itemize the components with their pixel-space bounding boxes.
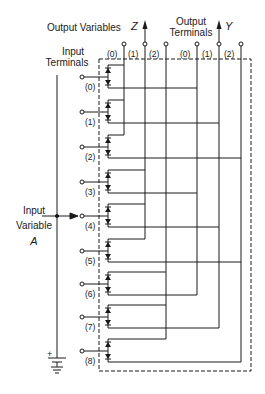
input-terminal-label: (3) xyxy=(85,187,95,198)
input-terminal-7 xyxy=(80,315,84,319)
output-terminal-z2 xyxy=(164,42,168,46)
output-terminal-z0 xyxy=(122,42,126,46)
input-terminal-2 xyxy=(80,145,84,149)
input-terminals-label: Input Terminals xyxy=(40,46,94,68)
diode-up-icon xyxy=(105,173,111,178)
output-column-label: (1) xyxy=(202,49,212,60)
diode-up-icon xyxy=(105,68,111,73)
diode-up-icon xyxy=(105,275,111,280)
output-column-label: (2) xyxy=(149,49,159,60)
input-terminal-0 xyxy=(80,75,84,79)
output-terminal-y1 xyxy=(217,42,221,46)
diode-down-icon xyxy=(105,115,111,120)
selector-arrow-icon xyxy=(70,213,78,219)
input-terminal-6 xyxy=(80,282,84,286)
input-terminal-label: (8) xyxy=(85,356,95,367)
diode-down-icon xyxy=(105,354,111,359)
output-terminal-y0 xyxy=(195,42,199,46)
output-variable-y: Y xyxy=(225,21,232,32)
output-terminal-y2 xyxy=(239,42,243,46)
diode-down-icon xyxy=(105,287,111,292)
output-variable-z: Z xyxy=(131,21,138,32)
output-arrow-icon xyxy=(217,20,222,29)
input-variable-label: Input Variable A xyxy=(16,205,52,247)
diode-up-icon xyxy=(105,342,111,347)
diode-down-icon xyxy=(105,219,111,224)
output-arrow-icon xyxy=(143,20,148,29)
junction-dot xyxy=(55,214,58,217)
diode-down-icon xyxy=(105,185,111,190)
diode-up-icon xyxy=(105,207,111,212)
diode-down-icon xyxy=(105,150,111,155)
input-terminal-label: (7) xyxy=(85,322,95,333)
matrix-enclosure xyxy=(99,59,251,371)
output-column-label: (0) xyxy=(107,49,117,60)
input-terminal-4 xyxy=(80,214,84,218)
diode-up-icon xyxy=(105,103,111,108)
input-terminal-label: (1) xyxy=(85,117,95,128)
diode-down-icon xyxy=(105,320,111,325)
input-terminal-label: (4) xyxy=(85,221,95,232)
output-terminal-z1 xyxy=(143,42,147,46)
output-column-label: (2) xyxy=(224,49,234,60)
input-terminal-5 xyxy=(80,249,84,253)
output-column-label: (1) xyxy=(128,49,138,60)
input-terminal-label: (0) xyxy=(85,82,95,93)
output-variables-label: Output Variables xyxy=(47,22,121,33)
input-terminal-label: (5) xyxy=(85,256,95,267)
input-terminal-8 xyxy=(80,349,84,353)
output-terminals-label: Output Terminals xyxy=(166,16,216,38)
diode-up-icon xyxy=(105,242,111,247)
input-terminal-label: (6) xyxy=(85,289,95,300)
diode-down-icon xyxy=(105,254,111,259)
battery-plus-sign: + xyxy=(47,349,52,360)
input-terminal-3 xyxy=(80,180,84,184)
diode-down-icon xyxy=(105,80,111,85)
diode-up-icon xyxy=(105,138,111,143)
input-terminal-1 xyxy=(80,110,84,114)
diode-up-icon xyxy=(105,308,111,313)
output-column-label: (0) xyxy=(180,49,190,60)
input-terminal-label: (2) xyxy=(85,152,95,163)
